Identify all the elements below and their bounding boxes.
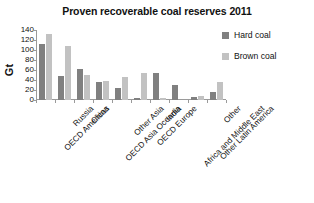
x-axis-category-label: Other	[221, 104, 242, 125]
x-axis-tick-mark	[131, 100, 132, 103]
bar	[210, 92, 216, 101]
bar	[103, 81, 109, 100]
bar	[115, 88, 121, 100]
bar-group	[188, 30, 207, 100]
y-axis-tick-label: 20	[12, 86, 34, 94]
legend-swatch-icon	[222, 53, 229, 60]
legend-label: Hard coal	[234, 30, 271, 40]
bar	[77, 69, 83, 100]
y-axis-tick-label: 80	[12, 56, 34, 64]
chart-title: Proven recoverable coal reserves 2011	[0, 5, 314, 17]
plot-area	[36, 30, 226, 100]
bar-group	[93, 30, 112, 100]
bar	[153, 73, 159, 101]
x-axis-tick-mark	[93, 100, 94, 103]
bar	[39, 44, 45, 101]
y-axis-tick-label: 0	[12, 96, 34, 104]
x-axis-tick-mark	[74, 100, 75, 103]
x-axis-tick-mark	[36, 100, 37, 103]
bar	[46, 34, 52, 100]
x-axis-tick-mark	[112, 100, 113, 103]
bar	[65, 46, 71, 100]
legend-item[interactable]: Hard coal	[222, 30, 310, 40]
x-axis-tick-mark	[55, 100, 56, 103]
y-axis-tick-label: 140	[12, 26, 34, 34]
bar	[84, 75, 90, 101]
bar	[122, 77, 128, 100]
bar	[134, 98, 140, 101]
bar-group	[112, 30, 131, 100]
x-axis-tick-mark	[207, 100, 208, 103]
chart-legend: Hard coalBrown coal	[222, 30, 310, 72]
legend-swatch-icon	[222, 32, 229, 39]
bar	[160, 98, 166, 101]
bar-group	[131, 30, 150, 100]
bar-group	[169, 30, 188, 100]
y-axis-tick-labels: 140120100806040200	[12, 24, 34, 106]
y-axis-tick-label: 100	[12, 46, 34, 54]
legend-item[interactable]: Brown coal	[222, 51, 310, 61]
x-axis-tick-mark	[150, 100, 151, 103]
bar	[172, 85, 178, 101]
bar	[217, 82, 223, 101]
chart-container: Proven recoverable coal reserves 2011 Gt…	[0, 0, 314, 203]
y-axis-tick-label: 40	[12, 76, 34, 84]
y-axis-tick-label: 120	[12, 36, 34, 44]
bar-group	[55, 30, 74, 100]
x-axis-tick-mark	[188, 100, 189, 103]
legend-label: Brown coal	[234, 51, 277, 61]
x-axis-tick-mark	[226, 100, 227, 103]
bar-group	[74, 30, 93, 100]
bar	[198, 96, 204, 100]
y-axis-tick-label: 60	[12, 66, 34, 74]
bar	[141, 73, 147, 101]
bar-group	[150, 30, 169, 100]
bar	[58, 76, 64, 101]
x-axis-tick-mark	[169, 100, 170, 103]
bar-group	[36, 30, 55, 100]
bar	[191, 97, 197, 101]
bar	[96, 82, 102, 100]
